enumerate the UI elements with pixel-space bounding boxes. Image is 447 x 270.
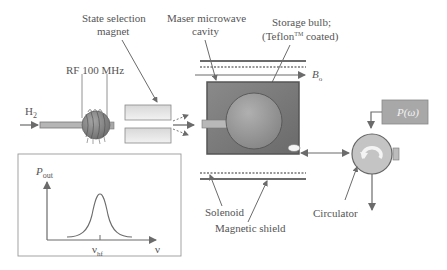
storage-bulb-label-2: (TeflonTM coated) — [262, 30, 339, 43]
storage-bulb — [226, 93, 282, 149]
coupling-loop — [288, 145, 300, 152]
maser-cavity-label-1: Maser microwave — [167, 12, 246, 24]
state-selection-label-2: magnet — [97, 25, 129, 37]
circulator: Circulator — [313, 134, 399, 219]
gas-tube — [40, 122, 86, 128]
svg-text:H2: H2 — [25, 105, 37, 120]
plot-xlabel: ν — [155, 243, 160, 255]
resonance-inset-plot: Pout νhf ν — [18, 154, 181, 258]
rf-label: RF 100 MHz — [66, 64, 124, 76]
maser-cavity — [202, 82, 300, 154]
h2-source: H2 — [20, 105, 86, 128]
h2-label: H — [25, 105, 33, 117]
p-omega-label: P(ω) — [396, 106, 419, 119]
hydrogen-maser-diagram: H2 RF 100 MHz State selection magnet Mas… — [0, 0, 447, 270]
magnet-upper — [125, 105, 171, 120]
p-omega-box: P(ω) — [371, 100, 428, 128]
state-selection-label-1: State selection — [82, 12, 146, 24]
circulator-label: Circulator — [313, 207, 358, 219]
svg-text:Bo: Bo — [312, 68, 323, 83]
storage-bulb-label-1: Storage bulb; — [272, 16, 331, 28]
rf-dissociator: RF 100 MHz — [66, 64, 124, 144]
magnet-lower — [125, 128, 171, 143]
solenoid-label: Solenoid — [205, 206, 245, 218]
magnetic-shield-label: Magnetic shield — [215, 222, 286, 234]
maser-cavity-label-2: cavity — [192, 25, 219, 37]
